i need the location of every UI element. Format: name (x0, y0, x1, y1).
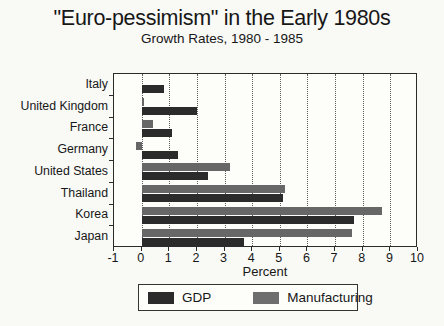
category-label-japan: Japan (0, 229, 108, 243)
x-axis-tick-label: 5 (275, 251, 282, 265)
x-axis-tick-label: 9 (386, 251, 393, 265)
legend-item-gdp: GDP (148, 290, 211, 305)
bar-gdp (142, 238, 244, 246)
bar-gdp (142, 85, 164, 93)
manufacturing-swatch-icon (253, 292, 279, 304)
gridline-8 (363, 74, 364, 246)
bar-gdp (142, 107, 197, 115)
bar-manufacturing (136, 142, 142, 150)
plot-area (113, 73, 417, 247)
category-label-germany: Germany (0, 142, 108, 156)
bar-gdp (142, 151, 178, 159)
bar-manufacturing (142, 120, 153, 128)
gdp-swatch-icon (148, 292, 174, 304)
x-axis-tick-label: 6 (303, 251, 310, 265)
x-axis-title: Percent (113, 264, 417, 279)
x-axis-tick-label: -1 (107, 251, 118, 265)
chart-subtitle: Growth Rates, 1980 - 1985 (0, 31, 444, 46)
bar-manufacturing (142, 98, 145, 106)
bar-manufacturing (142, 185, 286, 193)
x-axis-tick-label: 3 (220, 251, 227, 265)
gridline-9 (390, 74, 391, 246)
x-axis-tick-label: 8 (358, 251, 365, 265)
bar-gdp (142, 194, 283, 202)
category-label-italy: Italy (0, 77, 108, 91)
y-axis-tick (109, 117, 113, 118)
y-axis-tick (109, 95, 113, 96)
bar-manufacturing (142, 163, 230, 171)
y-axis-tick (109, 182, 113, 183)
legend-box: GDP Manufacturing (138, 284, 358, 311)
bar-gdp (142, 216, 355, 224)
bar-gdp (142, 129, 172, 137)
y-axis-tick (109, 138, 113, 139)
category-label-korea: Korea (0, 207, 108, 221)
y-axis-tick (109, 204, 113, 205)
category-label-united-kingdom: United Kingdom (0, 99, 108, 113)
x-axis-tick-label: 1 (165, 251, 172, 265)
bar-manufacturing (142, 229, 352, 237)
x-axis-tick-label: 0 (137, 251, 144, 265)
legend-item-manufacturing: Manufacturing (253, 290, 373, 305)
category-label-united-states: United States (0, 164, 108, 178)
legend-label-manufacturing: Manufacturing (287, 290, 373, 305)
category-label-thailand: Thailand (0, 186, 108, 200)
chart-title: "Euro-pessimism" in the Early 1980s (0, 6, 444, 31)
bar-manufacturing (142, 207, 382, 215)
y-axis-tick (109, 225, 113, 226)
legend-label-gdp: GDP (182, 290, 211, 305)
chart-page: "Euro-pessimism" in the Early 1980s Grow… (0, 0, 444, 326)
bar-gdp (142, 172, 208, 180)
category-label-france: France (0, 120, 108, 134)
x-axis-tick-label: 2 (192, 251, 199, 265)
x-axis-tick-label: 7 (331, 251, 338, 265)
x-axis-tick-label: 4 (248, 251, 255, 265)
x-axis-tick-label: 10 (410, 251, 424, 265)
y-axis-tick (109, 160, 113, 161)
